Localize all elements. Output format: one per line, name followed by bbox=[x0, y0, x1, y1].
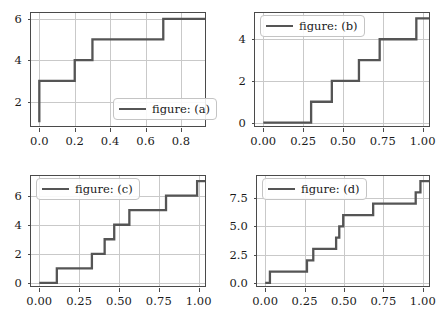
x-tick-mark bbox=[305, 288, 306, 292]
x-tick-label: 0.6 bbox=[136, 134, 155, 148]
x-tick-mark bbox=[423, 128, 424, 132]
y-tick-label: 4 bbox=[239, 32, 246, 46]
x-tick-mark bbox=[39, 288, 40, 292]
subplot-d: 0.000.250.500.751.000.02.55.07.5 figure:… bbox=[222, 160, 444, 321]
y-tick-mark bbox=[28, 196, 32, 197]
x-tick-mark bbox=[181, 128, 182, 132]
y-tick-mark bbox=[254, 198, 258, 199]
y-tick-mark bbox=[28, 60, 32, 61]
y-tick-mark bbox=[28, 254, 32, 255]
y-tick-mark bbox=[28, 19, 32, 20]
x-tick-label: 0.25 bbox=[290, 134, 316, 148]
x-tick-mark bbox=[79, 288, 80, 292]
y-tick-mark bbox=[254, 283, 258, 284]
x-tick-mark bbox=[343, 128, 344, 132]
subplot-c: 0.000.250.500.751.000246 figure: (c) bbox=[0, 160, 222, 321]
y-tick-label: 0.0 bbox=[229, 276, 248, 290]
x-tick-label: 0.50 bbox=[106, 294, 132, 308]
x-tick-label: 0.00 bbox=[250, 134, 276, 148]
x-tick-label: 0.8 bbox=[172, 134, 191, 148]
y-tick-mark bbox=[28, 102, 32, 103]
x-tick-mark bbox=[265, 288, 266, 292]
legend-label-c: figure: (c) bbox=[75, 182, 133, 196]
subplot-a: 0.00.20.40.60.8246 figure: (a) bbox=[0, 0, 222, 160]
y-tick-label: 2 bbox=[15, 95, 22, 109]
legend-d[interactable]: figure: (d) bbox=[262, 178, 367, 200]
legend-line-icon bbox=[42, 188, 69, 190]
x-tick-label: 1.00 bbox=[410, 134, 436, 148]
x-tick-label: 1.00 bbox=[410, 294, 436, 308]
y-tick-label: 5.0 bbox=[229, 219, 248, 233]
x-tick-label: 0.00 bbox=[26, 294, 52, 308]
y-tick-mark bbox=[28, 283, 32, 284]
legend-c[interactable]: figure: (c) bbox=[36, 178, 140, 200]
y-tick-label: 2 bbox=[239, 74, 246, 88]
y-tick-label: 7.5 bbox=[229, 191, 248, 205]
x-tick-label: 0.25 bbox=[66, 294, 92, 308]
x-tick-label: 0.75 bbox=[370, 134, 396, 148]
legend-label-d: figure: (d) bbox=[301, 182, 360, 196]
legend-a[interactable]: figure: (a) bbox=[113, 98, 217, 120]
x-tick-label: 0.50 bbox=[330, 134, 356, 148]
x-tick-mark bbox=[110, 128, 111, 132]
x-tick-mark bbox=[423, 288, 424, 292]
x-tick-label: 0.75 bbox=[370, 294, 396, 308]
y-tick-label: 6 bbox=[15, 12, 22, 26]
legend-line-icon bbox=[266, 25, 293, 27]
legend-line-icon bbox=[268, 188, 295, 190]
x-tick-mark bbox=[146, 128, 147, 132]
x-tick-label: 0.0 bbox=[30, 134, 49, 148]
x-tick-mark bbox=[383, 128, 384, 132]
figure-canvas: 0.00.20.40.60.8246 figure: (a) 0.000.250… bbox=[0, 0, 444, 321]
y-tick-mark bbox=[28, 225, 32, 226]
y-tick-mark bbox=[254, 255, 258, 256]
x-tick-mark bbox=[75, 128, 76, 132]
y-tick-label: 0 bbox=[15, 276, 22, 290]
legend-b[interactable]: figure: (b) bbox=[260, 15, 365, 37]
y-tick-label: 6 bbox=[15, 189, 22, 203]
y-tick-mark bbox=[254, 226, 258, 227]
x-tick-mark bbox=[383, 288, 384, 292]
x-tick-label: 0.00 bbox=[252, 294, 278, 308]
x-tick-mark bbox=[303, 128, 304, 132]
x-tick-mark bbox=[344, 288, 345, 292]
x-tick-label: 0.4 bbox=[101, 134, 120, 148]
y-tick-label: 0 bbox=[239, 116, 246, 130]
x-tick-mark bbox=[199, 288, 200, 292]
y-tick-mark bbox=[252, 39, 256, 40]
legend-label-b: figure: (b) bbox=[299, 19, 358, 33]
y-tick-label: 4 bbox=[15, 53, 22, 67]
y-tick-mark bbox=[252, 123, 256, 124]
x-tick-label: 1.00 bbox=[186, 294, 212, 308]
x-tick-mark bbox=[263, 128, 264, 132]
legend-label-a: figure: (a) bbox=[152, 102, 210, 116]
subplot-b: 0.000.250.500.751.00024 figure: (b) bbox=[222, 0, 444, 160]
x-tick-mark bbox=[119, 288, 120, 292]
y-tick-label: 2.5 bbox=[229, 248, 248, 262]
y-tick-mark bbox=[252, 81, 256, 82]
legend-line-icon bbox=[119, 108, 146, 110]
x-tick-label: 0.75 bbox=[146, 294, 172, 308]
x-tick-mark bbox=[159, 288, 160, 292]
x-tick-label: 0.50 bbox=[331, 294, 357, 308]
y-tick-label: 4 bbox=[15, 218, 22, 232]
x-tick-label: 0.2 bbox=[65, 134, 84, 148]
y-tick-label: 2 bbox=[15, 247, 22, 261]
x-tick-mark bbox=[39, 128, 40, 132]
x-tick-label: 0.25 bbox=[292, 294, 318, 308]
